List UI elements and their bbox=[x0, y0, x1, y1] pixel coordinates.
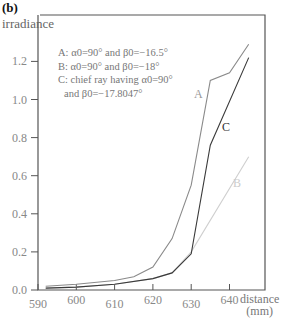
legend-entry-b: B: α0=90° and β0=−18° bbox=[58, 60, 173, 74]
panel-label: (b) bbox=[2, 0, 18, 16]
x-tick-label: 610 bbox=[106, 297, 124, 311]
x-tick-label: 620 bbox=[144, 293, 162, 307]
y-tick-label: 0.2 bbox=[12, 245, 27, 259]
y-tick-label: 0.8 bbox=[12, 131, 27, 145]
curve-label-a: A bbox=[194, 87, 203, 102]
x-axis-label: distance (mm) bbox=[240, 293, 279, 317]
y-tick-label: 1.0 bbox=[12, 93, 27, 107]
curve-label-c: C bbox=[222, 120, 230, 135]
y-tick-label: 0.4 bbox=[12, 207, 27, 221]
curve-label-b: B bbox=[233, 176, 241, 191]
x-tick-label: 640 bbox=[221, 293, 239, 307]
series-line-b bbox=[46, 157, 249, 288]
legend: A: α0=90° and β0=−16.5° B: α0=90° and β0… bbox=[58, 46, 173, 100]
legend-entry-a: A: α0=90° and β0=−16.5° bbox=[58, 46, 173, 60]
x-tick-label: 600 bbox=[67, 293, 85, 307]
x-axis-label-line2: (mm) bbox=[240, 305, 279, 317]
y-tick-label: 0.6 bbox=[12, 169, 27, 183]
y-tick-label: 1.2 bbox=[12, 54, 27, 68]
legend-entry-c-cont: and β0=−17.8047° bbox=[58, 87, 173, 101]
y-axis-label: irradiance bbox=[2, 16, 54, 32]
legend-entry-c: C: chief ray having α0=90° bbox=[58, 73, 173, 87]
x-tick-label: 630 bbox=[182, 297, 200, 311]
y-tick-label: 0.0 bbox=[12, 283, 27, 297]
x-tick-label: 590 bbox=[29, 297, 47, 311]
